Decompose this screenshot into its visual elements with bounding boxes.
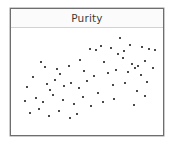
scatter-point [63, 85, 65, 87]
scatter-point [56, 68, 58, 70]
scatter-point [83, 70, 85, 72]
scatter-point [107, 72, 109, 74]
scatter-point [93, 75, 95, 77]
scatter-point [141, 46, 143, 48]
scatter-point [144, 60, 146, 62]
scatter-point [79, 59, 81, 61]
scatter-point [59, 73, 61, 75]
scatter-point [131, 63, 133, 65]
scatter-point [123, 50, 125, 52]
scatter-point [127, 71, 129, 73]
scatter-point [129, 44, 131, 46]
scatter-point [117, 53, 119, 55]
scatter-point [89, 48, 91, 50]
scatter-point [100, 45, 102, 47]
scatter-point [152, 67, 154, 69]
scatter-point [136, 90, 138, 92]
scatter-point [46, 83, 48, 85]
chart-panel: Purity [10, 8, 164, 136]
scatter-point [26, 86, 28, 88]
scatter-point [122, 57, 124, 59]
scatter-point [124, 82, 126, 84]
scatter-point [134, 67, 136, 69]
scatter-point [95, 49, 97, 51]
scatter-point [44, 66, 46, 68]
scatter-point [52, 94, 54, 96]
scatter-point [102, 101, 104, 103]
scatter-point [78, 87, 80, 89]
scatter-point [24, 100, 26, 102]
scatter-point [112, 84, 114, 86]
scatter-point [113, 98, 115, 100]
scatter-point [35, 97, 37, 99]
chart-title-bar: Purity [11, 9, 163, 28]
scatter-point [58, 110, 60, 112]
scatter-point [90, 105, 92, 107]
scatter-point [70, 82, 72, 84]
scatter-point [110, 47, 112, 49]
scatter-point [86, 80, 88, 82]
scatter-point [62, 99, 64, 101]
page-title: Purity [71, 13, 103, 24]
scatter-point [154, 49, 156, 51]
scatter-point [148, 48, 150, 50]
scatter-point [115, 69, 117, 71]
scatter-point [146, 81, 148, 83]
scatter-point [54, 79, 56, 81]
scatter-point [103, 61, 105, 63]
scatter-point [144, 95, 146, 97]
scatter-point [68, 65, 70, 67]
scatter-point [119, 37, 121, 39]
scatter-point [42, 101, 44, 103]
scatter-point [29, 112, 31, 114]
scatter-point [82, 96, 84, 98]
scatter-point [32, 76, 34, 78]
scatter-point [137, 65, 139, 67]
scatter-point [97, 92, 99, 94]
scatter-point [49, 89, 51, 91]
scatter-point [48, 115, 50, 117]
scatter-point [69, 117, 71, 119]
scatter-point [73, 103, 75, 105]
scatter-point [38, 108, 40, 110]
scatter-point [76, 113, 78, 115]
scatter-point [133, 104, 135, 106]
scatter-point [40, 61, 42, 63]
scatter-point [140, 74, 142, 76]
scatter-plot-area [11, 28, 163, 135]
